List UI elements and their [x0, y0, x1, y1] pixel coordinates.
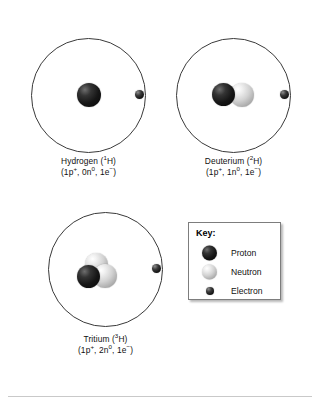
caption-deuterium-composition: (1p+, 1n0, 1e−) — [175, 167, 292, 178]
caption-deuterium-name: Deuterium (2H) — [175, 156, 292, 167]
key-item-electron: Electron — [189, 281, 280, 300]
key-title: Key: — [196, 228, 216, 238]
bottom-divider — [8, 396, 312, 397]
electron-sphere — [152, 264, 161, 273]
key-item-proton: Proton — [189, 243, 280, 262]
electron-sphere-icon — [206, 287, 214, 295]
electron-sphere — [280, 90, 289, 99]
key-label-proton: Proton — [231, 248, 256, 258]
proton-sphere — [77, 265, 100, 288]
key-label-electron: Electron — [231, 286, 263, 296]
neutron-sphere-icon — [202, 264, 217, 279]
proton-sphere-icon — [202, 245, 217, 260]
key-label-neutron: Neutron — [231, 267, 262, 277]
key-legend: Key: Proton Neutron Electron — [188, 222, 281, 300]
proton-sphere — [212, 83, 235, 106]
atom-tritium: Tritium (3H) (1p+, 2n0, 1e−) — [48, 212, 165, 372]
caption-deuterium: Deuterium (2H) (1p+, 1n0, 1e−) — [175, 156, 292, 178]
caption-hydrogen-name: Hydrogen (1H) — [30, 156, 147, 167]
key-item-neutron: Neutron — [189, 262, 280, 281]
caption-tritium: Tritium (3H) (1p+, 2n0, 1e−) — [47, 334, 164, 356]
electron-sphere — [135, 90, 144, 99]
caption-hydrogen-composition: (1p+, 0n0, 1e−) — [30, 167, 147, 178]
atom-hydrogen: Hydrogen (1H) (1p+, 0n0, 1e−) — [31, 38, 148, 192]
proton-sphere — [77, 83, 101, 107]
caption-hydrogen: Hydrogen (1H) (1p+, 0n0, 1e−) — [30, 156, 147, 178]
atom-deuterium: Deuterium (2H) (1p+, 1n0, 1e−) — [176, 38, 293, 192]
isotope-diagram: Hydrogen (1H) (1p+, 0n0, 1e−) Deuterium … — [0, 0, 320, 403]
caption-tritium-composition: (1p+, 2n0, 1e−) — [47, 345, 164, 356]
caption-tritium-name: Tritium (3H) — [47, 334, 164, 345]
